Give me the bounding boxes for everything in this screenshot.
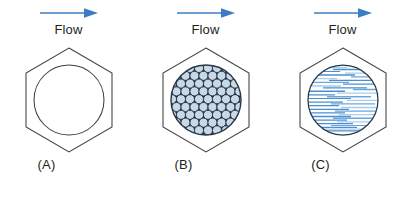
cell-cross-section-c xyxy=(274,44,411,154)
flow-label-c: Flow xyxy=(328,23,356,36)
hexagon-cell-b xyxy=(156,44,256,156)
hexagon-cell-c xyxy=(293,44,393,156)
flow-indicator-b: Flow xyxy=(137,6,274,48)
flow-indicator-c: Flow xyxy=(274,6,411,48)
panel-c: Flow xyxy=(274,0,411,197)
flow-label-a: Flow xyxy=(54,23,82,36)
panel-label-a: (A) xyxy=(0,158,137,171)
panel-label-b: (B) xyxy=(137,158,274,171)
inner-circle-a xyxy=(34,65,104,135)
right-arrow-icon xyxy=(38,6,100,20)
flow-label-b: Flow xyxy=(191,23,219,36)
hexagon-cell-a xyxy=(19,44,119,156)
cell-cross-section-b xyxy=(137,44,274,154)
right-arrow-icon xyxy=(312,6,374,20)
right-arrow-icon xyxy=(175,6,237,20)
cell-cross-section-a xyxy=(0,44,137,154)
panel-a: Flow (A) xyxy=(0,0,137,197)
panel-b: Flow xyxy=(137,0,274,197)
flow-cross-section-figure: Flow (A) Flow xyxy=(0,0,411,197)
panel-label-c: (C) xyxy=(274,158,411,171)
flow-indicator-a: Flow xyxy=(0,6,137,48)
